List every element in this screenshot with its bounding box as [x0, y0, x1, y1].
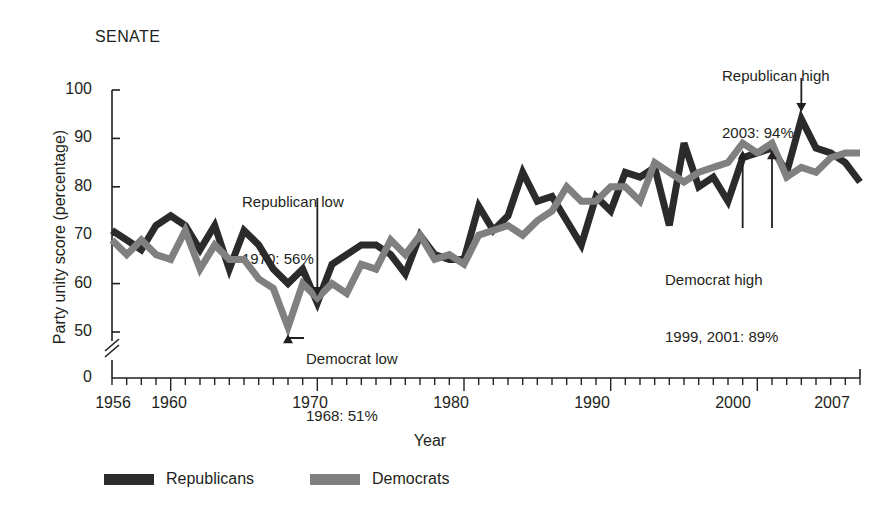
legend-swatch-democrats: [310, 474, 360, 485]
legend-item-republicans[interactable]: Republicans: [104, 470, 254, 488]
legend-swatch-republicans: [104, 474, 154, 485]
legend: Republicans Democrats: [104, 470, 449, 488]
chart-figure: SENATE Party unity score (percentage) Ye…: [0, 0, 887, 516]
annotation-arrows: [283, 78, 806, 343]
legend-label-democrats: Democrats: [372, 470, 449, 488]
plot-area: [0, 0, 887, 516]
legend-item-democrats[interactable]: Democrats: [310, 470, 449, 488]
legend-label-republicans: Republicans: [166, 470, 254, 488]
series-layer: [112, 119, 860, 327]
series-line-democrats: [112, 143, 860, 327]
